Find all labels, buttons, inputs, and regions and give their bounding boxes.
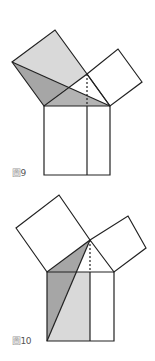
figure-9 bbox=[12, 30, 142, 175]
fig9-bottom-square bbox=[44, 106, 110, 175]
figure-9-label: 圖9 bbox=[12, 166, 26, 179]
figure-9-label-prefix: 圖 bbox=[12, 168, 21, 178]
fig9-small-square bbox=[87, 49, 142, 106]
figure-9-diagram bbox=[0, 0, 155, 361]
fig10-small-square bbox=[90, 216, 146, 272]
figure-9-label-number: 9 bbox=[21, 168, 26, 178]
figure-10-label-number: 10 bbox=[21, 336, 31, 346]
figure-10-label-prefix: 圖 bbox=[12, 336, 21, 346]
figure-10 bbox=[16, 195, 146, 341]
figure-10-label: 圖10 bbox=[12, 334, 31, 347]
